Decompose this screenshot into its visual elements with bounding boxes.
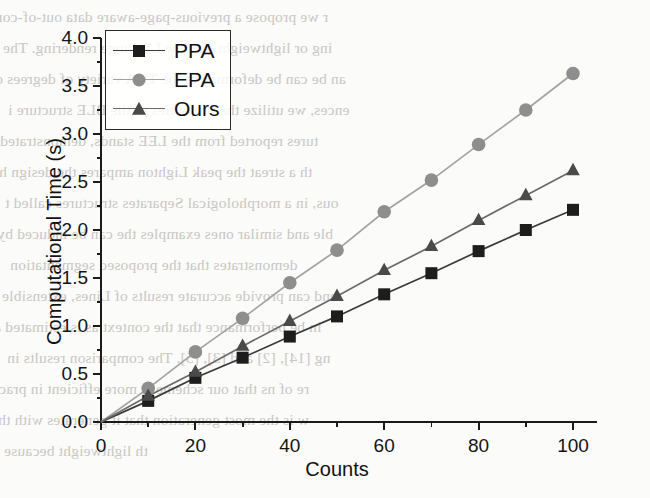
data-point	[519, 188, 533, 200]
data-point	[566, 67, 580, 81]
data-point	[472, 213, 486, 225]
x-tick-label: 0	[96, 435, 107, 457]
y-tick-label: 4.0	[62, 27, 88, 49]
x-tick-label: 40	[279, 435, 300, 457]
data-point	[472, 138, 486, 152]
data-point	[425, 239, 439, 251]
data-point	[425, 173, 439, 187]
data-point	[473, 245, 485, 257]
legend-swatch-ours	[113, 98, 165, 120]
data-point	[330, 243, 344, 257]
data-point	[330, 289, 344, 301]
legend-item-epa: EPA	[113, 65, 220, 94]
x-axis-title: Counts	[305, 458, 368, 481]
legend-label-ours: Ours	[165, 98, 220, 119]
data-point	[284, 331, 296, 343]
y-tick-label: 3.5	[62, 75, 88, 97]
legend-swatch-ppa	[113, 40, 165, 62]
legend-item-ppa: PPA	[113, 36, 220, 65]
data-point	[283, 276, 297, 290]
y-tick-label: 0.0	[62, 411, 88, 433]
data-point	[566, 163, 580, 175]
data-point	[567, 204, 579, 216]
data-point	[331, 310, 343, 322]
x-tick-label: 60	[374, 435, 395, 457]
x-tick-label: 80	[468, 435, 489, 457]
legend-label-epa: EPA	[165, 69, 214, 90]
legend-item-ours: Ours	[113, 94, 220, 123]
data-point	[519, 103, 533, 117]
y-tick-label: 1.5	[62, 267, 88, 289]
data-point	[189, 364, 203, 376]
legend-swatch-epa	[113, 69, 165, 91]
y-tick-label: 1.0	[62, 315, 88, 337]
data-point	[283, 314, 297, 326]
data-point	[236, 338, 250, 350]
y-tick-label: 2.0	[62, 219, 88, 241]
chart-figure: r we propose a previous-page-aware data …	[0, 0, 650, 498]
data-point	[237, 352, 249, 364]
y-tick-label: 0.5	[62, 363, 88, 385]
x-tick-label: 20	[185, 435, 206, 457]
x-tick-label: 100	[557, 435, 589, 457]
data-point	[520, 224, 532, 236]
data-point	[378, 288, 390, 300]
y-tick-label: 3.0	[62, 123, 88, 145]
legend-label-ppa: PPA	[165, 40, 214, 61]
y-tick-label: 2.5	[62, 171, 88, 193]
chart-legend: PPA EPA Ours	[105, 30, 231, 130]
data-point	[236, 312, 250, 326]
data-point	[189, 345, 203, 359]
data-point	[377, 205, 391, 219]
data-point	[425, 267, 437, 279]
plot-area	[0, 0, 650, 498]
y-axis-title: Computational Time (s)	[43, 92, 66, 392]
